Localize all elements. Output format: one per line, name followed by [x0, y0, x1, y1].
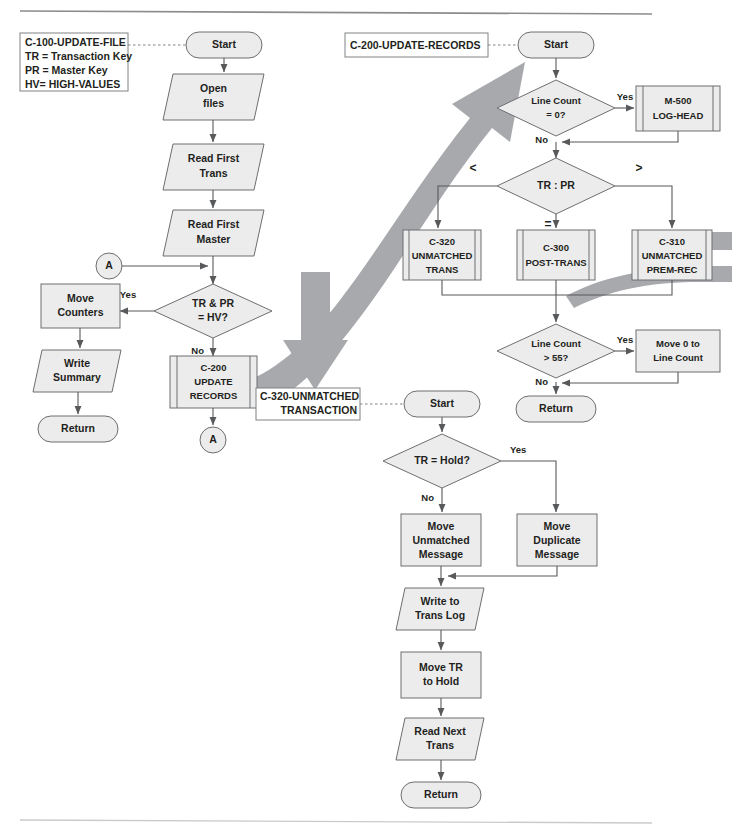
node-c100-return-label: Return: [61, 422, 95, 434]
node-c100-write-summary-line-0: Write: [64, 357, 90, 369]
node-c100-move-counters[interactable]: Move Counters: [41, 284, 120, 328]
node-c200-call-c320[interactable]: C-320 UNMATCHED TRANS: [403, 230, 481, 280]
node-c200-call-c320-line-1: UNMATCHED: [412, 250, 473, 261]
node-c320-move-unmatched-line-0: Move: [428, 520, 455, 532]
node-c320-write-log[interactable]: Write to Trans Log: [396, 588, 484, 630]
legend-c320-line-0: C-320-UNMATCHED: [260, 390, 359, 402]
node-c320-write-log-line-0: Write to: [421, 595, 460, 607]
node-c100-call-c200-line-1: UPDATE: [194, 376, 232, 387]
legend-c100-line-2: PR = Master Key: [25, 64, 108, 76]
rule-bottom: [20, 820, 652, 823]
node-c100-decision-hv[interactable]: TR & PR = HV?: [154, 284, 272, 338]
node-c320-move-duplicate-line-1: Duplicate: [533, 534, 580, 546]
node-c320-read-next[interactable]: Read Next Trans: [396, 718, 484, 760]
node-c320-move-tr-hold-line-1: to Hold: [423, 675, 459, 687]
legend-c320-line-1: TRANSACTION: [281, 404, 357, 416]
edge-label-c200-gt: >: [635, 161, 642, 175]
node-c320-move-duplicate-line-0: Move: [544, 520, 571, 532]
node-c100-write-summary[interactable]: Write Summary: [33, 350, 121, 392]
node-c200-decision-trpr[interactable]: TR : PR: [497, 158, 615, 214]
node-c200-decision-lc0-line-1: = 0?: [546, 109, 565, 120]
node-c200-call-c300-line-1: POST-TRANS: [525, 257, 586, 268]
legend-c100-line-1: TR = Transaction Key: [25, 50, 132, 62]
node-c100-move-counters-line-0: Move: [67, 292, 94, 304]
node-c200-move-0-lc-line-0: Move 0 to: [656, 338, 700, 349]
edge-c320-hold-yes: [501, 461, 556, 512]
edge-c200-move0-return: [562, 372, 678, 383]
node-c100-return[interactable]: Return: [38, 416, 118, 442]
edge-label-c200-lt: <: [469, 161, 476, 175]
node-c100-read-master-line-0: Read First: [188, 218, 240, 230]
edge-label-c100-no: No: [191, 345, 204, 356]
node-c200-call-c310-line-1: UNMATCHED: [642, 250, 703, 261]
node-c320-move-duplicate[interactable]: Move Duplicate Message: [517, 514, 597, 566]
node-c320-write-log-line-1: Trans Log: [415, 609, 465, 621]
node-c200-return-label: Return: [539, 402, 573, 414]
node-c100-open-files-line-1: files: [203, 97, 224, 109]
node-c200-move-0-lc[interactable]: Move 0 to Line Count: [636, 330, 720, 372]
node-c100-connector-a-in[interactable]: A: [96, 253, 122, 279]
flowchart-page: C-100-UPDATE-FILE TR = Transaction Key P…: [0, 0, 732, 835]
node-c320-start-label: Start: [430, 397, 454, 409]
edge-label-c200-no-2: No: [535, 376, 548, 387]
node-c320-read-next-line-0: Read Next: [414, 725, 466, 737]
edge-label-c320-yes: Yes: [510, 444, 526, 455]
node-c100-call-c200[interactable]: C-200 UPDATE RECORDS: [170, 356, 257, 408]
edge-label-c200-yes-2: Yes: [617, 334, 633, 345]
legend-c100-line-3: HV= HIGH-VALUES: [25, 78, 120, 90]
legend-c320: C-320-UNMATCHED TRANSACTION: [256, 388, 360, 420]
node-c320-move-tr-hold-line-0: Move TR: [419, 661, 463, 673]
node-c320-read-next-line-1: Trans: [426, 739, 454, 751]
node-c200-decision-lc55-line-1: > 55?: [544, 352, 569, 363]
node-c100-open-files-line-0: Open: [200, 82, 227, 94]
edge-c200-trpr-gt: [615, 186, 672, 228]
legend-c100-line-0: C-100-UPDATE-FILE: [25, 36, 126, 48]
expansion-arrow-c200: [238, 62, 525, 410]
node-c320-move-tr-hold[interactable]: Move TR to Hold: [401, 652, 481, 698]
node-c100-decision-hv-line-0: TR & PR: [192, 297, 234, 309]
node-c200-call-m500-line-1: LOG-HEAD: [653, 110, 704, 121]
node-c200-start[interactable]: Start: [518, 32, 594, 58]
node-c200-call-c310[interactable]: C-310 UNMATCHED PREM-REC: [632, 230, 712, 280]
node-c200-move-0-lc-line-1: Line Count: [653, 352, 703, 363]
node-c200-call-c310-line-0: C-310: [659, 236, 685, 247]
node-c100-connector-a-out[interactable]: A: [200, 427, 226, 453]
node-c320-decision-hold[interactable]: TR = Hold?: [383, 434, 501, 488]
node-c100-start-label: Start: [212, 38, 236, 50]
node-c200-return[interactable]: Return: [516, 396, 596, 422]
node-c200-decision-lc55-line-0: Line Count: [531, 338, 581, 349]
node-c320-start[interactable]: Start: [404, 391, 480, 417]
node-c100-read-trans-line-0: Read First: [188, 152, 240, 164]
node-c200-decision-trpr-line-0: TR : PR: [537, 179, 575, 191]
node-c100-read-master-line-1: Master: [197, 233, 231, 245]
edge-c200-m500-return: [562, 131, 678, 142]
node-c100-move-counters-line-1: Counters: [57, 306, 103, 318]
node-c200-call-c300[interactable]: C-300 POST-TRANS: [517, 230, 595, 280]
node-c200-start-label: Start: [544, 38, 568, 50]
node-c200-call-m500[interactable]: M-500 LOG-HEAD: [636, 86, 720, 131]
edge-c200-c320-merge: [442, 280, 556, 295]
node-c100-write-summary-line-1: Summary: [53, 371, 101, 383]
node-c320-return[interactable]: Return: [401, 782, 481, 808]
node-c100-connector-a-in-label: A: [105, 259, 113, 271]
legend-c100: C-100-UPDATE-FILE TR = Transaction Key P…: [20, 33, 132, 91]
node-c200-call-c320-line-0: C-320: [429, 236, 455, 247]
edge-label-c200-eq: =: [544, 217, 551, 231]
node-c100-read-master[interactable]: Read First Master: [163, 210, 264, 256]
node-c200-call-c320-line-2: TRANS: [426, 264, 459, 275]
node-c100-call-c200-line-0: C-200: [201, 362, 227, 373]
node-c100-read-trans-line-1: Trans: [199, 167, 227, 179]
rule-top: [20, 11, 652, 14]
node-c100-start[interactable]: Start: [186, 32, 262, 58]
node-c100-read-trans[interactable]: Read First Trans: [163, 144, 264, 190]
node-c200-call-c300-line-0: C-300: [543, 242, 569, 253]
node-c320-return-label: Return: [424, 788, 458, 800]
edge-c320-duplicate-merge: [448, 566, 557, 576]
node-c100-open-files[interactable]: Open files: [163, 74, 264, 120]
edge-label-c320-no: No: [421, 492, 434, 503]
edge-label-c200-no-1: No: [535, 134, 548, 145]
node-c320-move-unmatched[interactable]: Move Unmatched Message: [401, 514, 481, 566]
node-c200-decision-lc55[interactable]: Line Count > 55?: [497, 324, 615, 378]
node-c100-decision-hv-line-1: = HV?: [198, 311, 228, 323]
legend-c200-line-0: C-200-UPDATE-RECORDS: [350, 39, 481, 51]
